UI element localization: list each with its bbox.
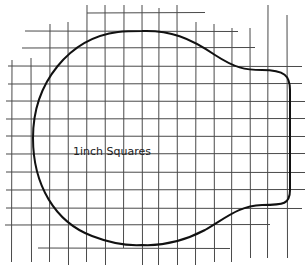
grid-line-horizontal — [6, 101, 305, 102]
grid-line-horizontal — [6, 172, 305, 173]
grid-line-horizontal — [6, 208, 302, 209]
grid-line-horizontal — [6, 190, 305, 191]
grid-line-horizontal — [22, 48, 255, 49]
grid-line-vertical — [12, 60, 13, 262]
grid-line-vertical — [196, 22, 197, 265]
grid-line-vertical — [68, 22, 69, 265]
grid-line-horizontal — [87, 13, 205, 14]
grid-line-vertical — [105, 5, 106, 265]
grid-line-vertical — [214, 24, 215, 262]
grid-line-vertical — [31, 58, 32, 262]
grid-line-horizontal — [6, 119, 305, 120]
pattern-outline — [33, 31, 290, 245]
grid-line-horizontal — [8, 66, 302, 67]
grid-line-vertical — [87, 5, 88, 262]
pattern-diagram: 1inch Squares — [0, 0, 307, 272]
grid-line-horizontal — [5, 225, 270, 226]
grid-line-horizontal — [8, 84, 302, 85]
graph-paper-grid — [5, 5, 305, 265]
grid-scale-label: 1inch Squares — [73, 145, 151, 158]
grid-line-vertical — [124, 5, 125, 248]
grid-line-vertical — [268, 5, 269, 258]
grid-line-vertical — [142, 5, 143, 265]
grid-line-horizontal — [6, 154, 305, 155]
grid-line-vertical — [232, 28, 233, 262]
grid-line-vertical — [50, 24, 51, 262]
grid-line-vertical — [177, 5, 178, 265]
grid-line-horizontal — [6, 136, 305, 137]
grid-line-horizontal — [38, 248, 230, 249]
grid-line-vertical — [250, 28, 251, 258]
